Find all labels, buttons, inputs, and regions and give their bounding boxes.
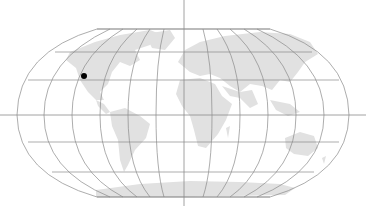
landmass-north-america (66, 30, 160, 100)
landmass-madagascar (226, 126, 230, 138)
landmass-central-america (96, 100, 110, 114)
world-map (0, 0, 366, 206)
landmass-new-zealand (322, 156, 326, 164)
landmass-australia (285, 132, 318, 156)
location-marker[interactable] (81, 73, 87, 79)
landmass-south-america (110, 108, 150, 172)
